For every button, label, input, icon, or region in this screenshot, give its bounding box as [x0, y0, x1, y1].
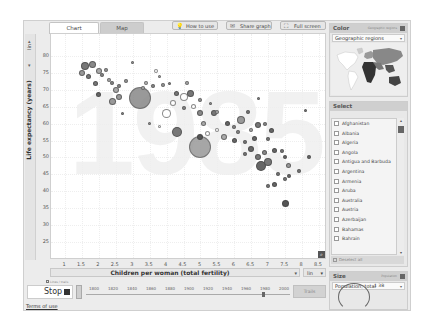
fullscreen-icon: ⛶ — [284, 23, 291, 29]
color-panel-title: Color — [333, 25, 349, 31]
country-list-item[interactable]: Algeria — [332, 138, 403, 148]
trails-button[interactable]: Trails — [293, 285, 326, 298]
country-list-item[interactable]: Antigua and Barbuda — [332, 157, 403, 167]
color-options-icon[interactable] — [400, 26, 405, 31]
country-bubble[interactable] — [280, 149, 284, 153]
size-options-icon[interactable] — [400, 274, 405, 279]
country-list-item[interactable]: Angola — [332, 148, 403, 158]
country-checkbox[interactable] — [334, 131, 339, 136]
y-tick-label: 45 — [37, 170, 49, 176]
country-bubble[interactable] — [174, 91, 179, 96]
country-bubble[interactable] — [232, 138, 237, 143]
country-bubble[interactable] — [89, 61, 96, 68]
country-list-item[interactable]: Bahamas — [332, 225, 403, 235]
country-list-item[interactable]: Albania — [332, 129, 403, 139]
country-bubble[interactable] — [162, 109, 171, 118]
country-checkbox[interactable] — [334, 217, 339, 222]
country-checkbox[interactable] — [334, 121, 339, 126]
full-screen-button[interactable]: ⛶ Full screen — [280, 21, 326, 30]
country-bubble[interactable] — [187, 90, 194, 97]
country-list-item[interactable]: Argentina — [332, 167, 403, 177]
country-bubble[interactable] — [282, 200, 289, 207]
how-to-use-button[interactable]: 💡 How to use — [172, 21, 218, 30]
country-bubble[interactable] — [263, 122, 267, 126]
country-checkbox[interactable] — [334, 198, 339, 203]
country-label: Algeria — [342, 140, 358, 145]
country-bubble[interactable] — [172, 127, 182, 137]
share-graph-button[interactable]: ✉ Share graph — [226, 21, 272, 30]
y-tick-label: 55 — [37, 137, 49, 143]
country-label: Argentina — [342, 169, 364, 174]
country-checkbox[interactable] — [334, 188, 339, 193]
country-bubble[interactable] — [297, 169, 301, 173]
country-bubble[interactable] — [104, 68, 108, 72]
y-tick-label: 75 — [37, 69, 49, 75]
country-bubble[interactable] — [182, 106, 186, 110]
trails-label: Lines / trails — [50, 280, 68, 284]
country-list-item[interactable]: Armenia — [332, 177, 403, 187]
zoom-icon[interactable]: ⌕ — [318, 251, 325, 258]
country-label: Afghanistan — [342, 121, 369, 126]
country-bubble[interactable] — [116, 94, 122, 100]
country-list-item[interactable]: Azerbaijan — [332, 215, 403, 225]
country-bubble[interactable] — [257, 97, 260, 100]
country-checkbox[interactable] — [334, 140, 339, 145]
country-bubble[interactable] — [269, 128, 274, 133]
color-dropdown[interactable]: Geographic regions ▾ — [332, 34, 405, 42]
x-scale-selector[interactable]: lin ▾ — [303, 268, 326, 277]
country-bubble[interactable] — [246, 110, 250, 114]
world-map-legend[interactable] — [331, 43, 407, 95]
deselect-all-button[interactable]: Deselect all — [331, 256, 404, 264]
country-list-item[interactable]: Australia — [332, 196, 403, 206]
scroll-thumb[interactable] — [398, 126, 404, 133]
country-bubble[interactable] — [304, 109, 307, 112]
deselect-all-label: Deselect all — [339, 257, 362, 262]
country-list-item[interactable]: Austria — [332, 205, 403, 215]
tab-map[interactable]: Map — [100, 22, 144, 33]
country-bubble[interactable] — [93, 81, 98, 86]
timeline-thumb[interactable] — [262, 292, 265, 297]
country-bubble[interactable] — [287, 174, 291, 178]
country-checkbox[interactable] — [334, 150, 339, 155]
country-bubble[interactable] — [141, 86, 145, 90]
country-list[interactable]: AfghanistanAlbaniaAlgeriaAngolaAntigua a… — [331, 118, 404, 255]
trails-checkbox[interactable] — [46, 280, 49, 283]
country-checkbox[interactable] — [334, 207, 339, 212]
country-list-item[interactable]: Aruba — [332, 186, 403, 196]
country-list-item[interactable]: Bahrain — [332, 234, 403, 244]
y-axis-label[interactable]: Life expectancy (years) — [25, 30, 32, 210]
y-tick-label: 25 — [37, 238, 49, 244]
country-list-item[interactable]: Afghanistan — [332, 119, 403, 129]
country-checkbox[interactable] — [334, 179, 339, 184]
scroll-down-icon[interactable]: ▾ — [397, 250, 405, 255]
country-bubble[interactable] — [109, 98, 116, 105]
size-panel-header: Size Population — [330, 272, 407, 281]
timeline-year-label: 1940 — [219, 286, 235, 291]
country-bubble[interactable] — [185, 81, 189, 85]
country-checkbox[interactable] — [334, 169, 339, 174]
grid-line-horizontal — [51, 141, 325, 142]
x-axis-selector[interactable]: Children per woman (total fertility) ▾ — [50, 268, 300, 277]
x-axis-label: Children per woman (total fertility) — [51, 269, 289, 277]
terms-of-use-link[interactable]: Terms of use — [26, 303, 58, 309]
country-bubble[interactable] — [86, 74, 91, 79]
country-checkbox[interactable] — [334, 236, 339, 241]
speed-slider[interactable] — [76, 285, 82, 299]
country-bubble[interactable] — [205, 131, 210, 136]
country-bubble[interactable] — [161, 83, 165, 87]
country-bubble[interactable] — [209, 102, 212, 105]
country-bubble[interactable] — [129, 87, 151, 109]
country-bubble[interactable] — [79, 70, 85, 76]
country-checkbox[interactable] — [334, 227, 339, 232]
country-bubble[interactable] — [100, 73, 104, 77]
full-screen-label: Full screen — [294, 23, 321, 29]
plot-area[interactable]: 1985 — [50, 33, 326, 259]
country-bubble[interactable] — [131, 61, 134, 64]
scroll-up-icon[interactable]: ▴ — [397, 118, 405, 123]
country-bubble[interactable] — [243, 140, 247, 144]
country-list-scrollbar[interactable]: ▴ ▾ — [396, 118, 404, 255]
country-bubble[interactable] — [243, 152, 247, 156]
timeline-slider[interactable]: 1800182018401860188019001920194019601980… — [84, 285, 292, 299]
country-checkbox[interactable] — [334, 159, 339, 164]
country-bubble[interactable] — [236, 130, 240, 134]
